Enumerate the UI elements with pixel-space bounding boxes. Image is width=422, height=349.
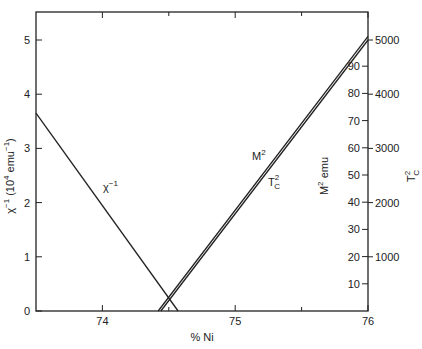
y-right-inner-tick-label: 70 bbox=[348, 115, 360, 127]
y-left-axis-label: χ−1(104 emu−1) bbox=[2, 138, 16, 214]
x-tick-label: 74 bbox=[96, 315, 108, 327]
x-axis-ticks: 747576 bbox=[96, 12, 374, 327]
y-right-outer-tick-label: 4000 bbox=[375, 88, 399, 100]
x-tick-label: 75 bbox=[229, 315, 241, 327]
y-right-inner-tick-label: 40 bbox=[348, 196, 360, 208]
y-right-outer-tick-label: 5000 bbox=[375, 34, 399, 46]
y-right-inner-tick-label: 10 bbox=[348, 278, 360, 290]
x-tick-label: 76 bbox=[362, 315, 374, 327]
y-right-outer-tick-label: 3000 bbox=[375, 142, 399, 154]
y-right-outer-tick-label: 2000 bbox=[375, 197, 399, 209]
y-left-axis-ticks: 012345 bbox=[24, 34, 42, 317]
y-right-outer-axis-label: T2C bbox=[403, 170, 421, 182]
y-left-tick-label: 4 bbox=[24, 88, 30, 100]
y-right-inner-tick-label: 30 bbox=[348, 223, 360, 235]
tc-squared-line bbox=[161, 40, 368, 311]
y-right-inner-tick-label: 90 bbox=[348, 60, 360, 72]
y-left-tick-label: 5 bbox=[24, 34, 30, 46]
series-label-chi-inverse: χ−1 bbox=[103, 179, 118, 193]
y-right-outer-tick-label: 1000 bbox=[375, 251, 399, 263]
m-squared-line bbox=[158, 36, 368, 311]
y-right-inner-tick-label: 20 bbox=[348, 251, 360, 263]
series-label-m-squared: M2 bbox=[252, 148, 266, 162]
chi-inverse-line bbox=[36, 113, 178, 311]
x-axis-label: % Ni bbox=[190, 331, 213, 343]
y-right-inner-tick-label: 60 bbox=[348, 142, 360, 154]
y-left-tick-label: 0 bbox=[24, 305, 30, 317]
y-right-inner-axis-label: M2 emu bbox=[316, 157, 330, 195]
y-right-axis-ticks: 10203040506070809010002000300040005000 bbox=[348, 34, 400, 290]
y-left-tick-label: 1 bbox=[24, 251, 30, 263]
y-left-tick-label: 2 bbox=[24, 197, 30, 209]
y-right-inner-tick-label: 50 bbox=[348, 169, 360, 181]
y-left-tick-label: 3 bbox=[24, 142, 30, 154]
chart: 747576 012345 10203040506070809010002000… bbox=[0, 0, 422, 349]
y-right-inner-tick-label: 80 bbox=[348, 87, 360, 99]
series-label-tc-squared: T2C bbox=[268, 173, 280, 191]
